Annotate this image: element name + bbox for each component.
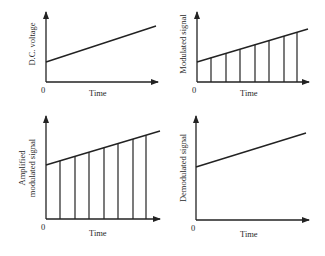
sample-bars	[211, 32, 297, 82]
origin-label: 0	[41, 222, 45, 232]
origin-label: 0	[41, 85, 45, 95]
diagram-canvas: 0 Time D.C. voltage 0 Time Modulated sig…	[0, 0, 325, 256]
y-axis-label: Modulated signal	[178, 14, 188, 74]
envelope-line	[46, 131, 160, 165]
dc-voltage-line	[46, 26, 156, 62]
envelope-line	[197, 29, 308, 62]
origin-label: 0	[191, 223, 195, 233]
panel-modulated-signal: 0 Time Modulated signal	[178, 12, 309, 98]
x-axis-label: Time	[89, 88, 107, 98]
panel-demodulated-signal: 0 Time Demodulated signal	[178, 116, 309, 239]
y-axis-label: D.C. voltage	[27, 22, 37, 65]
origin-label: 0	[192, 85, 196, 95]
y-axis-label: Demodulated signal	[178, 133, 188, 202]
x-axis-label: Time	[240, 229, 258, 239]
y-axis-label-line1: Amplified	[17, 150, 27, 186]
panel-dc-voltage: 0 Time D.C. voltage	[27, 12, 158, 98]
panel-amplified-modulated-signal: 0 Time Amplified modulated signal	[17, 116, 160, 238]
demodulated-line	[196, 133, 306, 167]
x-axis-label: Time	[240, 88, 258, 98]
y-axis-label-line2: modulated signal	[27, 138, 37, 197]
x-axis-label: Time	[89, 228, 107, 238]
